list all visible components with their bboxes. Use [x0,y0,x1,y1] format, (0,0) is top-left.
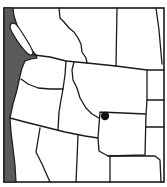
location-marker [101,112,109,120]
map-canvas [0,0,167,187]
locator-map: Locator map of northwestern North Americ… [0,0,167,187]
